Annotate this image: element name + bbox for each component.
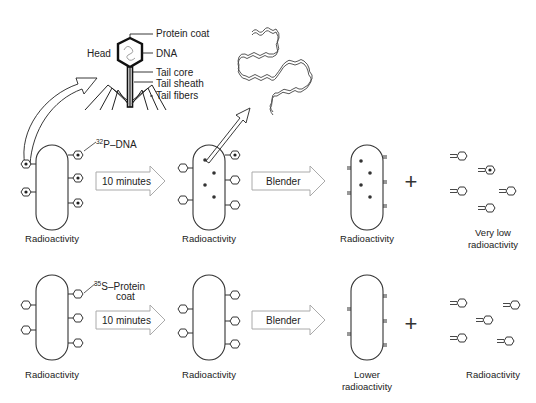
label-32p-dna: 32P–DNA <box>96 138 137 150</box>
phage-head-icon <box>118 38 142 67</box>
zoom-arrow-phage-icon <box>24 78 97 165</box>
label-dna: DNA <box>156 48 177 59</box>
tail-fibers-icon <box>85 85 166 110</box>
caption-cell-blended: Radioactivity <box>340 233 394 244</box>
arrow-label-10-minutes-2: 10 minutes <box>102 315 151 326</box>
label-head: Head <box>87 48 111 59</box>
caption-cell-blended-2-line1: Lower <box>354 369 380 380</box>
phage-ghosts-2 <box>450 299 520 345</box>
arrow-blender: Blender <box>252 166 325 196</box>
experiment-35s-row: 35S–Protein coat Radioactivity 10 minute… <box>21 275 520 392</box>
plus-sign: + <box>405 169 418 194</box>
arrow-label-blender: Blender <box>266 176 301 187</box>
caption-ghosts-line2: radioactivity <box>468 239 518 250</box>
label-tail-fibers: Tail fibers <box>156 90 198 101</box>
arrow-label-10-minutes: 10 minutes <box>102 176 151 187</box>
bacterium-cell-blended <box>347 145 387 230</box>
caption-cell-infected-2: Radioactivity <box>182 369 236 380</box>
label-35s-coat: coat <box>116 291 135 302</box>
caption-cell-infected: Radioactivity <box>182 233 236 244</box>
caption-cell-blended-2-line2: radioactivity <box>342 381 392 392</box>
bacterium-cell-start-2 <box>21 275 83 360</box>
label-protein-coat: Protein coat <box>156 28 210 39</box>
phage-structure: Head Protein coat DNA Tail core Tail she… <box>85 28 210 110</box>
label-tail-core: Tail core <box>156 67 194 78</box>
caption-cell-start: Radioactivity <box>25 233 79 244</box>
plus-sign-2: + <box>405 311 418 336</box>
arrow-label-blender-2: Blender <box>266 315 301 326</box>
dna-strands-icon <box>238 28 312 115</box>
hershey-chase-diagram: Head Protein coat DNA Tail core Tail she… <box>0 0 536 403</box>
label-tail-sheath: Tail sheath <box>156 78 204 89</box>
caption-cell-start-2: Radioactivity <box>25 369 79 380</box>
caption-ghosts-2: Radioactivity <box>466 369 520 380</box>
bacterium-cell-infected-2 <box>178 275 240 360</box>
experiment-32p-row: 32P–DNA Radioactivity 10 minutes Radioac… <box>21 138 518 250</box>
arrow-10-minutes-2: 10 minutes <box>96 305 165 335</box>
phage-ghosts <box>450 152 516 212</box>
caption-ghosts-line1: Very low <box>475 227 511 238</box>
bacterium-cell-blended-2 <box>347 275 387 360</box>
arrow-blender-2: Blender <box>252 305 325 335</box>
arrow-10-minutes: 10 minutes <box>96 166 165 196</box>
